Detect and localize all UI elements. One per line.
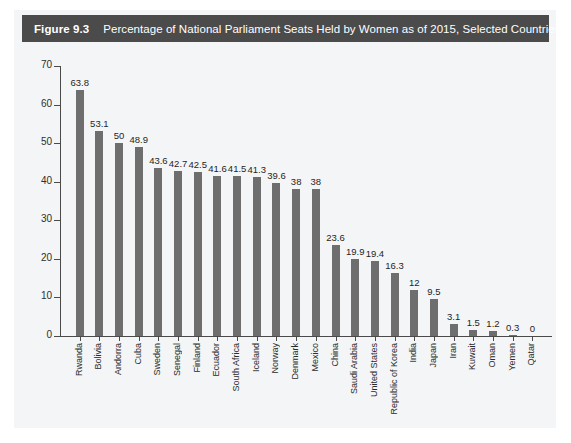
x-axis-category-label: Bolivia bbox=[93, 343, 105, 427]
category-label-text: Bolivia bbox=[93, 343, 103, 370]
bar-value-label: 38 bbox=[291, 176, 302, 187]
category-label-text: Sweden bbox=[152, 343, 162, 376]
bar-value-label: 12 bbox=[409, 277, 420, 288]
y-axis-tick-mark bbox=[54, 297, 60, 298]
x-axis-category-label: Republic of Korea bbox=[389, 343, 401, 427]
chart-plot-area: 010203040506070 63.853.15048.943.642.742… bbox=[22, 50, 549, 428]
category-label-text: Qatar bbox=[526, 343, 536, 366]
x-axis-category-label: United States bbox=[369, 343, 381, 427]
bar bbox=[312, 189, 320, 336]
bar-value-label: 63.8 bbox=[70, 77, 89, 88]
x-axis-tick-mark bbox=[178, 336, 179, 341]
x-axis-tick-mark bbox=[119, 336, 120, 341]
x-axis-category-label: South Africa bbox=[231, 343, 243, 427]
bar-value-label: 53.1 bbox=[90, 118, 109, 129]
figure-number: Figure 9.3 bbox=[34, 23, 89, 35]
x-axis-tick-mark bbox=[139, 336, 140, 341]
y-axis-tick-label: 10 bbox=[28, 290, 52, 301]
bar bbox=[233, 176, 241, 336]
x-axis-category-label: Iran bbox=[448, 343, 460, 427]
x-axis-category-label: Cuba bbox=[133, 343, 145, 427]
x-axis-tick-mark bbox=[336, 336, 337, 341]
x-axis-category-label: Senegal bbox=[172, 343, 184, 427]
category-label-text: Republic of Korea bbox=[389, 343, 399, 415]
bar-value-label: 1.2 bbox=[486, 318, 499, 329]
x-axis-category-label: Andorra bbox=[113, 343, 125, 427]
category-label-text: Denmark bbox=[290, 343, 300, 380]
bar-value-label: 16.3 bbox=[385, 260, 404, 271]
y-axis-tick-mark bbox=[54, 66, 60, 67]
bar-value-label: 50 bbox=[114, 130, 125, 141]
category-label-text: United States bbox=[369, 343, 379, 397]
x-axis-tick-mark bbox=[198, 336, 199, 341]
x-axis-category-label: Iceland bbox=[251, 343, 263, 427]
y-axis-tick-label: 50 bbox=[28, 136, 52, 147]
x-axis-tick-mark bbox=[158, 336, 159, 341]
x-axis-category-label: Sweden bbox=[152, 343, 164, 427]
x-axis-tick-mark bbox=[80, 336, 81, 341]
x-axis-category-label: Ecuador bbox=[211, 343, 223, 427]
bar-value-label: 0.3 bbox=[506, 322, 519, 333]
x-axis-category-label: Qatar bbox=[526, 343, 538, 427]
y-axis-tick-label: 20 bbox=[28, 252, 52, 263]
bar bbox=[292, 189, 300, 336]
x-axis-category-label: Denmark bbox=[290, 343, 302, 427]
category-label-text: Norway bbox=[270, 343, 280, 374]
x-axis-tick-mark bbox=[473, 336, 474, 341]
x-axis-line bbox=[60, 336, 552, 337]
y-axis-tick-mark bbox=[54, 105, 60, 106]
category-label-text: Kuwait bbox=[467, 343, 477, 370]
bar bbox=[154, 168, 162, 336]
bar-value-label: 41.3 bbox=[248, 164, 267, 175]
bar bbox=[194, 172, 202, 336]
figure-title-bar: Figure 9.3 Percentage of National Parlia… bbox=[22, 15, 549, 42]
bar bbox=[450, 324, 458, 336]
x-axis-category-label: India bbox=[408, 343, 420, 427]
figure-caption: Percentage of National Parliament Seats … bbox=[103, 23, 560, 35]
bar-value-label: 19.4 bbox=[366, 248, 385, 259]
bar bbox=[174, 171, 182, 336]
y-axis-tick-label: 70 bbox=[28, 59, 52, 70]
category-label-text: China bbox=[330, 343, 340, 367]
bar bbox=[509, 335, 517, 336]
x-axis-tick-mark bbox=[276, 336, 277, 341]
x-axis-tick-mark bbox=[532, 336, 533, 341]
bar bbox=[135, 147, 143, 336]
bar bbox=[371, 261, 379, 336]
figure-container: Figure 9.3 Percentage of National Parlia… bbox=[0, 0, 571, 443]
category-label-text: Finland bbox=[192, 343, 202, 373]
y-axis-line bbox=[60, 66, 61, 337]
x-axis-category-label: Norway bbox=[270, 343, 282, 427]
y-axis-tick-label: 40 bbox=[28, 175, 52, 186]
bar bbox=[410, 290, 418, 336]
category-label-text: South Africa bbox=[231, 343, 241, 392]
y-axis-tick-mark bbox=[54, 259, 60, 260]
bar-value-label: 0 bbox=[530, 323, 535, 334]
category-label-text: Cuba bbox=[133, 343, 143, 365]
bar bbox=[115, 143, 123, 336]
bar-value-label: 41.6 bbox=[208, 163, 227, 174]
y-axis-tick-label: 30 bbox=[28, 213, 52, 224]
bar bbox=[430, 299, 438, 336]
bar-value-label: 42.5 bbox=[189, 159, 208, 170]
category-label-text: Iran bbox=[448, 343, 458, 359]
bar bbox=[469, 330, 477, 336]
bar-value-label: 3.1 bbox=[447, 311, 460, 322]
bar-value-label: 19.9 bbox=[346, 246, 365, 257]
x-axis-category-label: Kuwait bbox=[467, 343, 479, 427]
x-axis-tick-mark bbox=[257, 336, 258, 341]
x-axis-category-label: Yemen bbox=[507, 343, 519, 427]
bar bbox=[489, 331, 497, 336]
y-axis-tick-mark bbox=[54, 336, 60, 337]
bar bbox=[76, 90, 84, 336]
category-label-text: Rwanda bbox=[74, 343, 84, 376]
bar-value-label: 9.5 bbox=[427, 286, 440, 297]
x-axis-tick-mark bbox=[493, 336, 494, 341]
category-label-text: Iceland bbox=[251, 343, 261, 372]
x-axis-category-label: Mexico bbox=[310, 343, 322, 427]
bar-value-label: 39.6 bbox=[267, 170, 286, 181]
bar-value-label: 42.7 bbox=[169, 158, 188, 169]
bar-value-label: 43.6 bbox=[149, 155, 168, 166]
bar bbox=[213, 176, 221, 336]
x-axis-tick-mark bbox=[355, 336, 356, 341]
